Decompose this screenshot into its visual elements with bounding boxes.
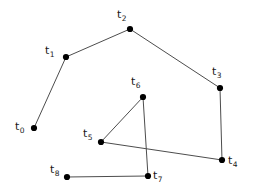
node-label-base: t <box>228 154 232 167</box>
graph-node[interactable] <box>140 94 146 100</box>
graph-edge <box>67 176 148 177</box>
node-label-subscript: 5 <box>88 133 93 142</box>
graph-node[interactable] <box>217 85 223 91</box>
node-label-subscript: 4 <box>233 160 238 169</box>
node-layer <box>31 26 225 180</box>
graph-edge <box>101 97 143 142</box>
node-label-t5: t5 <box>83 128 92 139</box>
node-label-t0: t0 <box>15 121 24 132</box>
graph-edge <box>66 29 130 57</box>
node-label-subscript: 7 <box>158 175 163 184</box>
node-label-subscript: 2 <box>122 14 127 23</box>
node-label-t2: t2 <box>117 9 126 20</box>
graph-svg <box>0 0 254 195</box>
node-label-subscript: 6 <box>136 81 141 90</box>
node-label-t7: t7 <box>153 170 162 181</box>
graph-edge <box>101 142 222 160</box>
graph-node[interactable] <box>98 139 104 145</box>
node-label-t1: t1 <box>45 45 54 56</box>
graph-node[interactable] <box>63 54 69 60</box>
graph-node[interactable] <box>64 174 70 180</box>
graph-edge <box>143 97 148 176</box>
node-label-subscript: 1 <box>50 50 55 59</box>
node-label-t8: t8 <box>50 164 59 175</box>
diagram-canvas: t0t1t2t3t4t5t6t7t8 <box>0 0 254 195</box>
node-label-t6: t6 <box>131 76 140 87</box>
graph-node[interactable] <box>31 125 37 131</box>
node-label-subscript: 0 <box>20 126 25 135</box>
edge-layer <box>34 29 222 177</box>
graph-node[interactable] <box>219 157 225 163</box>
node-label-t4: t4 <box>228 155 237 166</box>
node-label-base: t <box>153 169 157 182</box>
node-label-base: t <box>117 8 121 21</box>
node-label-subscript: 8 <box>55 169 60 178</box>
node-label-base: t <box>50 163 54 176</box>
graph-node[interactable] <box>127 26 133 32</box>
graph-edge <box>220 88 222 160</box>
node-label-subscript: 3 <box>217 71 222 80</box>
graph-edge <box>34 57 66 128</box>
node-label-base: t <box>15 120 19 133</box>
node-label-base: t <box>212 65 216 78</box>
graph-node[interactable] <box>145 173 151 179</box>
node-label-base: t <box>131 75 135 88</box>
node-label-base: t <box>45 44 49 57</box>
node-label-t3: t3 <box>212 66 221 77</box>
node-label-base: t <box>83 127 87 140</box>
graph-edge <box>130 29 220 88</box>
